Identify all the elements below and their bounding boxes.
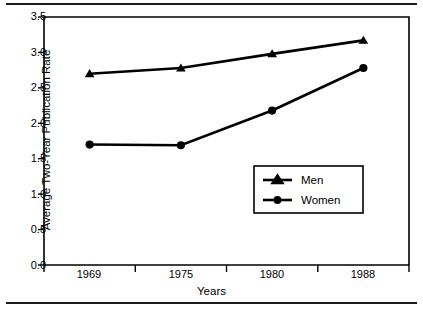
y-axis-title: Average Two-Year Publication Rate bbox=[40, 15, 52, 265]
x-tick-label-1988: 1988 bbox=[333, 269, 393, 280]
data-point-women-1980 bbox=[268, 106, 276, 114]
data-point-women-1975 bbox=[177, 141, 185, 149]
data-point-women-1988 bbox=[359, 64, 367, 72]
x-tick-label-1980: 1980 bbox=[242, 269, 302, 280]
series-line-men bbox=[90, 40, 364, 73]
x-tick-label-1969: 1969 bbox=[59, 269, 119, 280]
x-tick-label-1975: 1975 bbox=[151, 269, 211, 280]
plot-frame bbox=[44, 17, 409, 265]
x-axis-title: Years bbox=[0, 285, 423, 297]
publication-rate-line-chart: 3.5 3.0 2.5 2.0 1.5 1.0 0.5 0.0 1969 197… bbox=[0, 0, 423, 311]
data-point-women-1969 bbox=[86, 140, 94, 148]
series-markers-women bbox=[86, 64, 368, 149]
legend-label-men: Men bbox=[301, 174, 323, 186]
legend-label-women: Women bbox=[301, 194, 340, 206]
plot-area bbox=[0, 0, 423, 311]
series-line-women bbox=[90, 68, 364, 145]
